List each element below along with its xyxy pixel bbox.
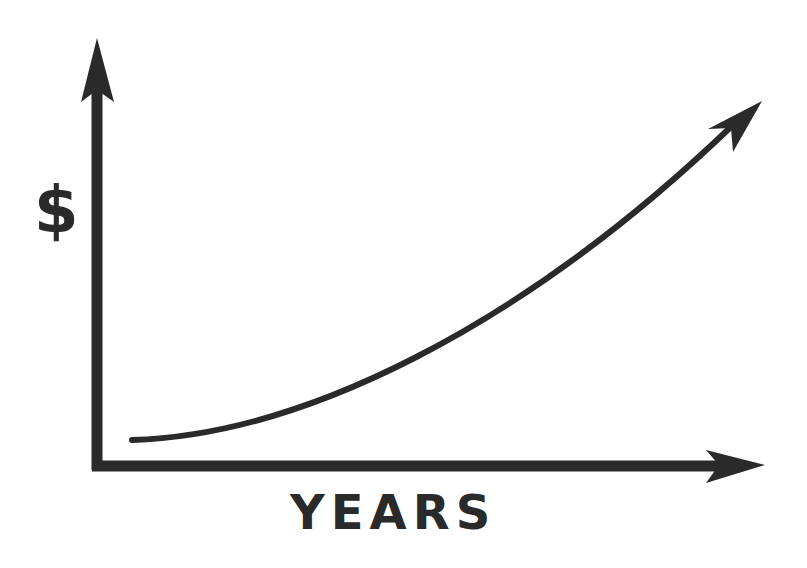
- y-axis: [81, 38, 114, 470]
- chart-graphic: [0, 0, 807, 568]
- growth-diagram: $ YEARS: [0, 0, 807, 568]
- x-axis-label: YEARS: [290, 488, 496, 536]
- y-axis-label: $: [34, 178, 79, 242]
- growth-curve: [132, 101, 762, 440]
- x-axis: [92, 450, 765, 483]
